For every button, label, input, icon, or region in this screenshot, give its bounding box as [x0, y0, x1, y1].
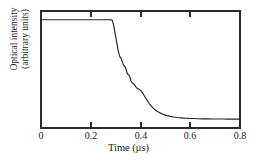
- y-axis-title: Optical intensity (arbitrary units): [9, 0, 31, 99]
- y-axis-title-line-1: Optical intensity: [9, 0, 20, 99]
- x-tick-label-0: 0: [39, 130, 44, 141]
- plot-frame: [41, 11, 240, 128]
- x-axis-ticks-bottom: [91, 122, 190, 128]
- data-series-optical-intensity: [41, 20, 240, 119]
- x-tick-label-2: 0.4: [135, 130, 148, 141]
- x-axis-ticks-top: [91, 11, 190, 17]
- y-axis-title-line-2: (arbitrary units): [20, 0, 31, 99]
- optical-intensity-figure: 0 0.2 0.4 0.6 0.8 Time (μs) Optical inte…: [0, 0, 257, 160]
- x-tick-label-1: 0.2: [85, 130, 98, 141]
- x-axis-title: Time (μs): [0, 142, 257, 153]
- x-tick-label-3: 0.6: [184, 130, 197, 141]
- x-tick-label-4: 0.8: [234, 130, 247, 141]
